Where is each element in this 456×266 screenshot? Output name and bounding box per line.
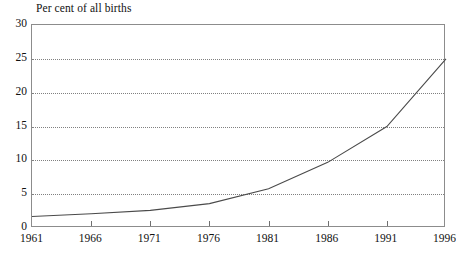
chart-title: Per cent of all births	[36, 1, 131, 15]
y-tick-label: 25	[0, 52, 27, 63]
x-tick-label: 1976	[197, 231, 220, 245]
x-tick-label: 1991	[374, 231, 397, 245]
x-tick-label: 1966	[79, 231, 102, 245]
x-axis-labels: 19611966197119761981198619911996	[0, 231, 456, 247]
y-axis-labels: 051015202530	[0, 0, 27, 266]
chart-figure: Per cent of all births 051015202530 1961…	[0, 0, 456, 266]
y-tick-label: 20	[0, 86, 27, 97]
plot-area	[31, 24, 445, 227]
y-tick-label: 30	[0, 18, 27, 29]
x-tick-label: 1996	[433, 231, 456, 245]
y-tick-label: 10	[0, 153, 27, 164]
x-tick-label: 1961	[20, 231, 43, 245]
x-tick-label: 1971	[138, 231, 161, 245]
series-line-chart	[32, 25, 446, 228]
x-tick-label: 1981	[256, 231, 279, 245]
series-line-path	[32, 59, 446, 217]
y-tick-label: 15	[0, 120, 27, 131]
y-tick-label: 5	[0, 187, 27, 198]
x-tick-label: 1986	[315, 231, 338, 245]
